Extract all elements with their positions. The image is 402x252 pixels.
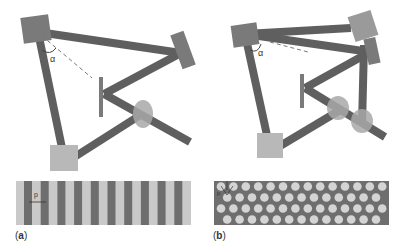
paren-close: ) (24, 230, 27, 241)
lattice-dot (353, 182, 362, 191)
lattice-dot (297, 193, 306, 202)
lattice-dot (248, 193, 257, 202)
lattice-dot (285, 215, 294, 224)
lattice-dot (353, 204, 362, 213)
lattice-dot (291, 182, 300, 191)
lattice-dot (328, 204, 337, 213)
interference-setup-figure (0, 0, 402, 252)
lattice-dot (235, 215, 244, 224)
lattice-dot (341, 182, 350, 191)
lattice-dot (242, 204, 251, 213)
lattice-dot (217, 204, 226, 213)
lattice-dot (291, 204, 300, 213)
lattice-dot (223, 215, 232, 224)
panel-a-setup (20, 14, 195, 171)
lattice-dot (359, 193, 368, 202)
paren-close: ) (222, 230, 225, 241)
lattice-dot (279, 204, 288, 213)
lattice-dot (273, 215, 282, 224)
mirror-center (99, 77, 103, 117)
lattice-dot (322, 215, 331, 224)
panel-b-label: (b) (213, 230, 226, 241)
lattice-dot (254, 182, 263, 191)
lattice-dot (378, 204, 387, 213)
lattice-dot (322, 193, 331, 202)
mirror-top-left (231, 22, 260, 47)
lattice-dot (279, 182, 288, 191)
lattice-dot (372, 193, 381, 202)
period-label-b: p (217, 190, 220, 196)
lattice-dot (229, 204, 238, 213)
lens-2 (351, 109, 373, 133)
lattice-dot (335, 193, 344, 202)
lattice-dot (316, 182, 325, 191)
lattice-dot (248, 215, 257, 224)
lattice-dot (347, 193, 356, 202)
lattice-dot (254, 204, 263, 213)
lattice-dot (304, 182, 313, 191)
lattice-dot (285, 193, 294, 202)
grating-bar (174, 181, 182, 225)
mirror-top-right-square (348, 10, 379, 42)
lattice-dot (260, 215, 269, 224)
lattice-dot (347, 215, 356, 224)
mirror-center (300, 74, 304, 108)
lattice-dot (242, 182, 251, 191)
lattice-dot (359, 215, 368, 224)
grating-bar (141, 181, 149, 225)
grating-bar (74, 181, 82, 225)
lattice-dot (366, 204, 375, 213)
grating-bar (108, 181, 116, 225)
lattice-dot (260, 193, 269, 202)
grating-pattern (16, 181, 191, 225)
sample-square (257, 133, 283, 158)
panel-b-setup (231, 10, 385, 158)
laser-beams (38, 32, 190, 156)
grating-bar (57, 181, 65, 225)
lattice-dot (273, 193, 282, 202)
grating-bar (91, 181, 99, 225)
lattice-dot (378, 182, 387, 191)
lens (133, 100, 153, 128)
lattice-dot (316, 204, 325, 213)
lens-1 (327, 96, 349, 120)
lattice-dot (297, 215, 306, 224)
panel-a-label: (a) (15, 230, 27, 241)
lattice-dot (310, 193, 319, 202)
lattice-dot (266, 182, 275, 191)
grating-bar (24, 181, 32, 225)
mirror-top-left (20, 14, 51, 44)
grating-bar (124, 181, 132, 225)
alpha-label-b: α (258, 48, 263, 58)
hex-lattice-pattern (214, 181, 389, 225)
lattice-dot (341, 204, 350, 213)
lattice-dot (310, 215, 319, 224)
lattice-dot (266, 204, 275, 213)
grating-bar (158, 181, 166, 225)
lattice-dot (372, 215, 381, 224)
lattice-dot (366, 182, 375, 191)
sample-square (50, 145, 78, 171)
lattice-dot (235, 193, 244, 202)
lattice-dot (328, 182, 337, 191)
lattice-dot (335, 215, 344, 224)
period-label-a: p (34, 191, 38, 198)
lattice-dot (304, 204, 313, 213)
grating-bar (41, 181, 49, 225)
alpha-label-a: α (50, 54, 55, 64)
